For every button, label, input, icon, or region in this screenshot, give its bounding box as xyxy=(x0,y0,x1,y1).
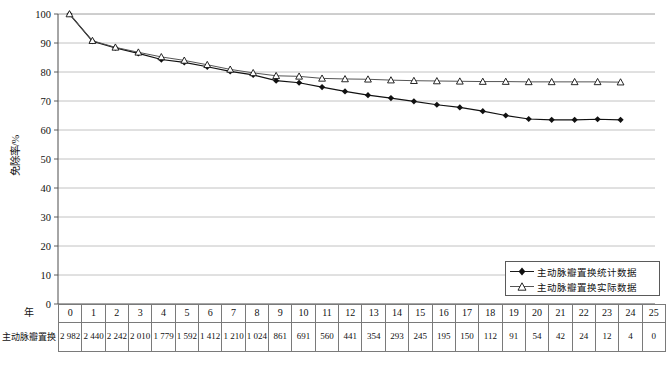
marker-statistical-10 xyxy=(296,80,302,86)
marker-statistical-13 xyxy=(365,92,371,98)
table-cell-count-0: 2 982 xyxy=(59,323,82,352)
table-row-counts: 主动脉瓣置换 2 9822 4402 2422 0101 7791 5921 4… xyxy=(0,323,666,352)
table-cell-count-24: 4 xyxy=(619,323,642,352)
open-triangle-marker-icon xyxy=(509,280,535,293)
table-cell-count-20: 54 xyxy=(525,323,548,352)
table-cell-count-16: 195 xyxy=(432,323,455,352)
table-cell-count-11: 560 xyxy=(315,323,338,352)
marker-statistical-15 xyxy=(411,98,417,104)
marker-statistical-22 xyxy=(572,117,578,123)
table-cell-year-4: 4 xyxy=(152,305,175,323)
marker-statistical-20 xyxy=(526,116,532,122)
row-label-avr: 主动脉瓣置换 xyxy=(0,323,59,352)
marker-statistical-18 xyxy=(480,108,486,114)
table-cell-year-24: 24 xyxy=(619,305,642,323)
y-tick-label-20: 20 xyxy=(41,241,52,252)
table-cell-year-15: 15 xyxy=(409,305,432,323)
table-cell-year-9: 9 xyxy=(269,305,292,323)
table-cell-year-17: 17 xyxy=(455,305,478,323)
marker-statistical-16 xyxy=(434,102,440,108)
data-table: 年 01234567891011121314151617181920212223… xyxy=(0,304,666,367)
table-cell-year-5: 5 xyxy=(175,305,198,323)
table-cell-year-23: 23 xyxy=(595,305,618,323)
table-cell-year-6: 6 xyxy=(199,305,222,323)
table-cell-year-14: 14 xyxy=(385,305,408,323)
chart-figure: 免除率/% 0102030405060708090100 主动脉瓣置换统计数据 … xyxy=(0,0,666,367)
table-cell-year-20: 20 xyxy=(525,305,548,323)
table-cell-count-10: 691 xyxy=(292,323,315,352)
table-cell-count-19: 91 xyxy=(502,323,525,352)
legend-label-actual: 主动脉瓣置换实际数据 xyxy=(535,280,637,294)
y-tick-label-80: 80 xyxy=(41,67,52,78)
table-cell-count-5: 1 592 xyxy=(175,323,198,352)
filled-diamond-marker-icon xyxy=(509,265,535,278)
marker-statistical-21 xyxy=(549,117,555,123)
table-cell-count-6: 1 412 xyxy=(199,323,222,352)
y-tick-label-30: 30 xyxy=(41,212,52,223)
table-cell-count-7: 1 210 xyxy=(222,323,245,352)
y-tick-label-10: 10 xyxy=(41,270,52,281)
table-cell-year-7: 7 xyxy=(222,305,245,323)
marker-statistical-12 xyxy=(342,88,348,94)
table-cell-count-18: 112 xyxy=(479,323,502,352)
y-tick-label-60: 60 xyxy=(41,125,52,136)
data-table-grid: 年 01234567891011121314151617181920212223… xyxy=(0,304,666,352)
table-cell-count-14: 293 xyxy=(385,323,408,352)
table-cell-count-21: 42 xyxy=(549,323,572,352)
table-cell-count-8: 1 024 xyxy=(245,323,268,352)
table-cell-count-13: 354 xyxy=(362,323,385,352)
table-cell-year-3: 3 xyxy=(129,305,152,323)
marker-statistical-17 xyxy=(457,104,463,110)
y-tick-label-100: 100 xyxy=(35,9,51,20)
table-cell-count-4: 1 779 xyxy=(152,323,175,352)
table-cell-year-19: 19 xyxy=(502,305,525,323)
table-cell-count-1: 2 440 xyxy=(82,323,105,352)
marker-statistical-23 xyxy=(594,116,600,122)
legend-label-statistical: 主动脉瓣置换统计数据 xyxy=(535,265,637,279)
chart-legend: 主动脉瓣置换统计数据 主动脉瓣置换实际数据 xyxy=(505,261,660,296)
table-cell-year-10: 10 xyxy=(292,305,315,323)
legend-item-actual[interactable]: 主动脉瓣置换实际数据 xyxy=(509,279,656,294)
table-cell-count-23: 12 xyxy=(595,323,618,352)
table-cell-count-22: 24 xyxy=(572,323,595,352)
table-cell-count-9: 861 xyxy=(269,323,292,352)
table-cell-count-12: 441 xyxy=(339,323,362,352)
table-cell-count-17: 150 xyxy=(455,323,478,352)
series-line-statistical xyxy=(69,14,620,120)
table-cell-year-1: 1 xyxy=(82,305,105,323)
marker-statistical-24 xyxy=(617,117,623,123)
y-tick-label-70: 70 xyxy=(41,96,52,107)
table-cell-year-18: 18 xyxy=(479,305,502,323)
table-row-years: 年 01234567891011121314151617181920212223… xyxy=(0,305,666,323)
row-label-year: 年 xyxy=(0,305,59,323)
y-tick-label-90: 90 xyxy=(41,38,52,49)
table-cell-year-13: 13 xyxy=(362,305,385,323)
y-tick-label-50: 50 xyxy=(41,154,52,165)
table-cell-year-8: 8 xyxy=(245,305,268,323)
marker-statistical-14 xyxy=(388,95,394,101)
table-cell-count-3: 2 010 xyxy=(129,323,152,352)
table-cell-year-25: 25 xyxy=(642,305,665,323)
y-tick-label-40: 40 xyxy=(41,183,52,194)
table-cell-year-11: 11 xyxy=(315,305,338,323)
table-cell-year-2: 2 xyxy=(105,305,128,323)
table-cell-count-25: 0 xyxy=(642,323,665,352)
marker-statistical-11 xyxy=(319,84,325,90)
table-cell-year-12: 12 xyxy=(339,305,362,323)
legend-item-statistical[interactable]: 主动脉瓣置换统计数据 xyxy=(509,264,656,279)
table-cell-year-22: 22 xyxy=(572,305,595,323)
marker-statistical-19 xyxy=(503,112,509,118)
table-cell-count-15: 245 xyxy=(409,323,432,352)
table-cell-year-21: 21 xyxy=(549,305,572,323)
table-cell-year-16: 16 xyxy=(432,305,455,323)
row-label-avr-text: 主动脉瓣置换 xyxy=(2,332,56,342)
table-cell-year-0: 0 xyxy=(59,305,82,323)
table-cell-count-2: 2 242 xyxy=(105,323,128,352)
